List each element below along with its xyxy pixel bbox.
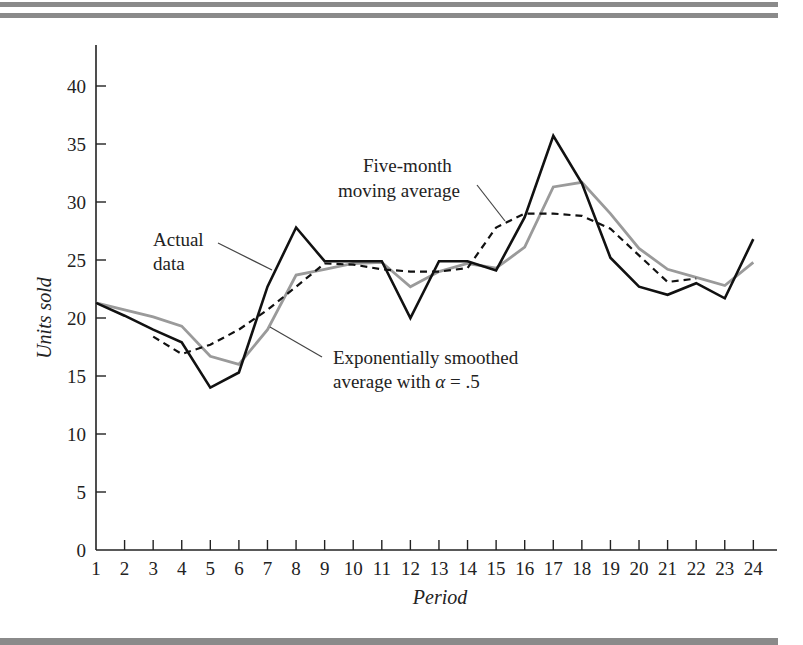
- x-tick-label: 2: [120, 558, 130, 579]
- x-tick-label: 23: [715, 558, 734, 579]
- x-tick-label: 14: [458, 558, 478, 579]
- x-tick-label: 12: [401, 558, 420, 579]
- leader-line-ma: [477, 185, 505, 221]
- x-tick-label: 6: [234, 558, 244, 579]
- series-exponential-smoothing: [96, 182, 753, 364]
- y-tick-label: 25: [67, 250, 86, 271]
- annotations: Units sold Period Actual data Five-month…: [33, 155, 519, 608]
- y-tick-label: 5: [77, 482, 87, 503]
- x-tick-label: 21: [658, 558, 677, 579]
- annotation-actual-line2: data: [153, 253, 185, 274]
- x-axis-title: Period: [412, 586, 468, 608]
- x-tick-label: 7: [263, 558, 273, 579]
- x-tick-label: 19: [601, 558, 620, 579]
- x-tick-label: 13: [429, 558, 448, 579]
- x-tick-label: 24: [744, 558, 764, 579]
- x-tick-label: 1: [91, 558, 101, 579]
- annotation-actual-line1: Actual: [153, 229, 204, 250]
- annotation-exp-line1: Exponentially smoothed: [333, 347, 519, 368]
- x-tick-label: 18: [572, 558, 591, 579]
- x-tick-label: 11: [373, 558, 391, 579]
- y-tick-label: 20: [67, 308, 86, 329]
- x-tick-label: 8: [291, 558, 301, 579]
- y-tick-label: 10: [67, 424, 86, 445]
- series-moving-average: [153, 214, 696, 354]
- axes: 0510152025303540123456789101112131415161…: [67, 45, 777, 579]
- y-tick-label: 15: [67, 366, 86, 387]
- x-tick-label: 10: [344, 558, 363, 579]
- y-tick-label: 40: [67, 76, 86, 97]
- line-chart: 0510152025303540123456789101112131415161…: [0, 0, 803, 645]
- x-tick-label: 16: [515, 558, 534, 579]
- y-tick-label: 35: [67, 134, 86, 155]
- x-tick-label: 5: [206, 558, 216, 579]
- leader-line-exp: [270, 327, 322, 357]
- leader-line-actual: [218, 243, 272, 270]
- annotation-ma-line2: moving average: [338, 180, 460, 201]
- x-tick-label: 15: [487, 558, 506, 579]
- y-axis-title: Units sold: [33, 276, 55, 359]
- y-tick-label: 30: [67, 192, 86, 213]
- x-tick-label: 4: [177, 558, 187, 579]
- x-tick-label: 3: [148, 558, 158, 579]
- y-tick-label: 0: [77, 540, 87, 561]
- annotation-exp-text: average with: [333, 371, 435, 392]
- annotation-exp-line2: average with α = .5: [333, 371, 480, 392]
- x-tick-label: 20: [630, 558, 649, 579]
- x-tick-label: 9: [320, 558, 330, 579]
- annotation-ma-line1: Five-month: [363, 155, 452, 176]
- x-tick-label: 22: [687, 558, 706, 579]
- x-tick-label: 17: [544, 558, 563, 579]
- alpha-value: = .5: [445, 371, 479, 392]
